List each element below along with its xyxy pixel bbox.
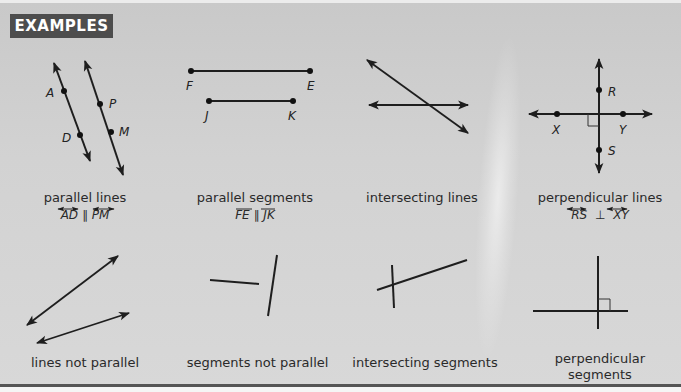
figure-perpendicular-segments: [533, 256, 628, 329]
point-r: [596, 87, 602, 93]
notation-operator: ∥: [82, 208, 88, 222]
label-x: X: [551, 123, 561, 137]
caption-parallel-segments: parallel segments: [185, 190, 325, 206]
line-upper: [27, 256, 118, 325]
label-j: J: [203, 109, 209, 123]
caption-perpendicular-lines: perpendicular lines: [525, 190, 675, 206]
point-k: [290, 98, 296, 104]
label-p: P: [109, 97, 117, 111]
caption-perpendicular-segments-line1: perpendicular: [525, 351, 675, 367]
notation-right: JK: [263, 208, 274, 222]
figure-parallel-lines: A D P M: [45, 61, 130, 175]
segment-horizontal: [210, 280, 259, 284]
point-y: [620, 111, 626, 117]
point-e: [307, 68, 313, 74]
caption-intersecting-segments: intersecting segments: [350, 355, 500, 371]
notation-left: FE: [235, 208, 249, 222]
label-k: K: [288, 109, 297, 123]
label-s: S: [608, 144, 616, 158]
notation-operator: ⊥: [591, 208, 609, 222]
caption-lines-not-parallel: lines not parallel: [15, 355, 155, 371]
page-margin: [0, 387, 681, 392]
label-e: E: [307, 79, 315, 93]
caption-perpendicular-segments-line2: segments: [525, 367, 675, 383]
label-r: R: [608, 85, 616, 99]
line-pm: [85, 61, 123, 175]
figure-intersecting-lines: [367, 60, 468, 133]
point-s: [596, 147, 602, 153]
label-a: A: [45, 86, 54, 100]
point-d: [77, 132, 83, 138]
point-x: [554, 111, 560, 117]
figure-lines-not-parallel: [27, 256, 129, 343]
notation-right: PM: [92, 208, 110, 222]
figure-parallel-segments: F E J K: [186, 68, 315, 123]
notation-left: AD: [61, 208, 78, 222]
figure-intersecting-segments: [377, 260, 467, 308]
notation-left: RS: [571, 208, 587, 222]
caption-segments-not-parallel: segments not parallel: [180, 355, 335, 371]
notation-parallel-lines: AD ∥ PM: [20, 208, 150, 222]
label-f: F: [186, 79, 194, 93]
point-f: [188, 68, 194, 74]
segment-slanted: [377, 260, 467, 290]
notation-parallel-segments: FE ∥ JK: [185, 208, 325, 222]
segment-vertical: [392, 265, 394, 308]
segment-steep: [268, 255, 277, 316]
label-m: M: [119, 125, 130, 139]
notation-perpendicular-lines: RS ⊥ XY: [525, 208, 675, 222]
figure-perpendicular-lines: R S X Y: [529, 59, 652, 173]
line-lower: [37, 313, 129, 343]
label-y: Y: [619, 123, 628, 137]
line-ad: [54, 63, 90, 161]
point-a: [61, 88, 67, 94]
figure-segments-not-parallel: [210, 255, 277, 316]
diagonal-line: [367, 60, 468, 133]
caption-parallel-lines: parallel lines: [20, 190, 150, 206]
notation-right: XY: [613, 208, 629, 222]
caption-intersecting-lines: intersecting lines: [352, 190, 492, 206]
right-angle-mark: [598, 299, 610, 311]
point-j: [206, 98, 212, 104]
label-d: D: [62, 131, 71, 145]
point-p: [97, 101, 103, 107]
right-angle-mark: [588, 114, 599, 126]
notation-operator: ∥: [254, 208, 260, 222]
point-m: [108, 129, 114, 135]
